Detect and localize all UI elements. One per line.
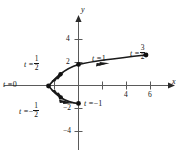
fraction-numerator: 3	[140, 44, 146, 52]
y-tick-label-neg-4: −4	[63, 127, 71, 135]
t-equals-text-1: t =	[92, 54, 102, 63]
t-equals-text-half: t =	[24, 60, 34, 69]
label-t-equals-0: t =0	[3, 81, 17, 89]
label-t-equals-neg-1: t =−1	[84, 100, 102, 108]
t-value-0: 0	[13, 80, 17, 89]
x-axis-label: x	[172, 78, 176, 86]
x-axis	[4, 82, 175, 88]
label-t-equals-three-halves: t =32	[130, 44, 145, 60]
fraction-one-half-neg: 12	[33, 102, 39, 118]
fraction-numerator: 1	[34, 55, 40, 63]
fraction-one-half: 12	[34, 55, 40, 71]
y-tick-label-neg-2: −2	[63, 104, 71, 112]
t-value-neg-1: −1	[94, 99, 103, 108]
plot-canvas	[0, 0, 188, 151]
y-tick-label-4: 4	[66, 35, 70, 43]
t-equals-text-three-halves: t =	[130, 49, 140, 58]
x-tick-label-4: 4	[124, 91, 128, 99]
point-t-neg-one-half	[59, 95, 63, 99]
label-t-equals-one-half: t =12	[24, 55, 39, 71]
parametric-curve-figure: x y 4 6 4 2 −2 −4 t =0 t =12 t =−12 t =1…	[0, 0, 188, 151]
fraction-denominator: 2	[33, 110, 39, 119]
fraction-denominator: 2	[140, 52, 146, 61]
point-t-neg-1	[76, 101, 81, 106]
t-equals-text-neg-1: t =	[84, 99, 94, 108]
t-equals-text-neg-half: t =	[19, 107, 29, 116]
point-t-one-half	[58, 72, 62, 76]
y-axis	[75, 15, 81, 150]
t-equals-text-0: t =	[3, 80, 13, 89]
x-tick-label-6: 6	[148, 91, 152, 99]
fraction-three-halves: 32	[140, 44, 146, 60]
y-axis-label: y	[81, 6, 85, 14]
fraction-denominator: 2	[34, 63, 40, 72]
t-value-1: 1	[102, 54, 106, 63]
label-t-equals-1: t =1	[92, 55, 106, 63]
y-tick-label-2: 2	[66, 58, 70, 66]
fraction-numerator: 1	[33, 102, 39, 110]
point-t-1	[76, 62, 81, 67]
point-t-0	[46, 84, 51, 89]
label-t-equals-neg-one-half: t =−12	[19, 102, 39, 118]
